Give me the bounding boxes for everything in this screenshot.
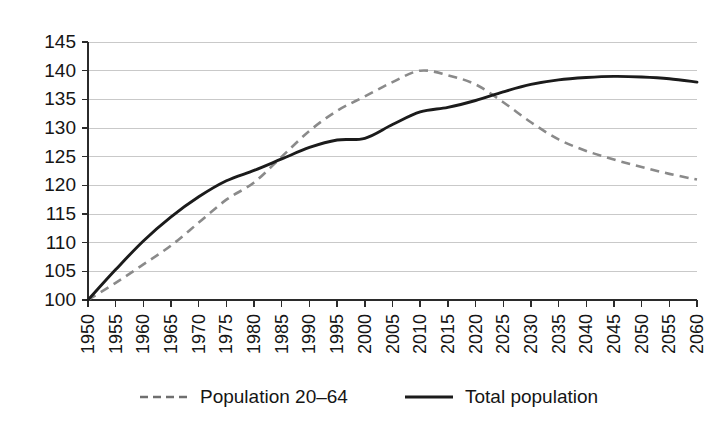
- x-tick-label: 2005: [383, 314, 403, 354]
- y-tick-label: 145: [44, 31, 76, 52]
- x-tick-label: 1995: [327, 314, 347, 354]
- y-tick-label: 115: [46, 203, 76, 224]
- x-axis-labels: 1950195519601965197019751980198519901995…: [78, 314, 707, 354]
- x-tick-label: 1990: [299, 314, 319, 354]
- x-tick-label: 2010: [410, 314, 430, 354]
- x-tick-label: 1960: [133, 314, 153, 354]
- x-tick-label: 1975: [216, 314, 236, 354]
- y-tick-label: 105: [44, 260, 76, 281]
- legend-label-2: Total population: [465, 386, 598, 407]
- x-tick-label: 2000: [355, 314, 375, 354]
- y-tick-label: 100: [44, 289, 76, 310]
- x-tick-label: 2025: [493, 314, 513, 354]
- y-tick-label: 130: [44, 117, 76, 138]
- x-tick-label: 2050: [632, 314, 652, 354]
- y-tick-label: 140: [44, 60, 76, 81]
- legend-label-1: Population 20–64: [200, 386, 348, 407]
- x-tick-label: 1985: [272, 314, 292, 354]
- x-tick-label: 1980: [244, 314, 264, 354]
- y-tick-label: 125: [44, 146, 76, 167]
- x-tick-label: 2035: [549, 314, 569, 354]
- x-tick-label: 1950: [78, 314, 98, 354]
- line-chart: 100105110115120125130135140145 195019551…: [0, 0, 728, 429]
- y-tick-label: 135: [44, 88, 76, 109]
- x-tick-label: 2040: [576, 314, 596, 354]
- x-tick-label: 1970: [189, 314, 209, 354]
- x-tick-label: 2020: [466, 314, 486, 354]
- x-tick-label: 2045: [604, 314, 624, 354]
- x-tick-label: 2060: [687, 314, 707, 354]
- x-tick-label: 2030: [521, 314, 541, 354]
- x-tick-label: 2015: [438, 314, 458, 354]
- x-tick-label: 1955: [106, 314, 126, 354]
- y-tick-label: 120: [44, 174, 76, 195]
- chart-container: 100105110115120125130135140145 195019551…: [0, 0, 728, 429]
- x-tick-label: 1965: [161, 314, 181, 354]
- x-tick-label: 2055: [659, 314, 679, 354]
- y-tick-label: 110: [46, 232, 76, 253]
